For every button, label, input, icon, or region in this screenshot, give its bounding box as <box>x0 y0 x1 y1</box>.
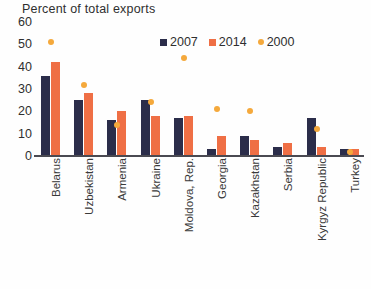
exports-bar-chart: Percent of total exports 2007 2014 2000 … <box>0 0 371 289</box>
bar-2014 <box>117 111 126 156</box>
x-label-belarus: Belarus <box>50 158 62 197</box>
bar-group <box>139 22 172 156</box>
y-tick-50: 50 <box>6 38 32 50</box>
marker-2000 <box>181 55 187 61</box>
marker-2000 <box>81 82 87 88</box>
x-label-ukraine: Ukraine <box>150 158 162 198</box>
bar-2014 <box>217 136 226 156</box>
x-axis-line <box>34 155 364 157</box>
bar-2007 <box>141 100 150 156</box>
marker-2000 <box>48 39 54 45</box>
bar-group <box>72 22 105 156</box>
bar-group <box>39 22 72 156</box>
chart-title: Percent of total exports <box>22 2 155 16</box>
bar-2007 <box>307 118 316 156</box>
bar-2007 <box>174 118 183 156</box>
bar-group <box>205 22 238 156</box>
y-tick-0: 0 <box>6 150 32 162</box>
marker-2000 <box>247 108 253 114</box>
marker-2000 <box>148 99 154 105</box>
bar-group <box>172 22 205 156</box>
bar-2014 <box>283 143 292 156</box>
bar-2014 <box>84 93 93 156</box>
y-tick-10: 10 <box>6 128 32 140</box>
x-label-armenia: Armenia <box>116 158 128 201</box>
marker-2000 <box>314 126 320 132</box>
y-tick-60: 60 <box>6 16 32 28</box>
bar-2014 <box>250 140 259 156</box>
y-axis-tick-labels: 6050403020100 <box>6 14 32 162</box>
plot-area <box>34 22 366 156</box>
bar-2014 <box>184 116 193 156</box>
bar-2007 <box>74 100 83 156</box>
bar-group <box>338 22 371 156</box>
marker-2000 <box>347 149 353 155</box>
bar-2014 <box>151 116 160 156</box>
bar-group <box>271 22 304 156</box>
x-label-kyrgyz-republic: Kyrgyz Republic <box>316 158 328 241</box>
bar-group <box>238 22 271 156</box>
x-label-georgia: Georgia <box>216 158 228 199</box>
x-label-moldova-rep: Moldova, Rep. <box>183 158 195 232</box>
bar-2014 <box>51 62 60 156</box>
marker-2000 <box>214 106 220 112</box>
x-label-turkey: Turkey <box>349 158 361 193</box>
x-label-uzbekistan: Uzbekistan <box>83 158 95 215</box>
x-axis-category-labels: BelarusUzbekistanArmeniaUkraineMoldova, … <box>34 158 366 286</box>
x-label-serbia: Serbia <box>282 158 294 191</box>
x-label-kazakhstan: Kazakhstan <box>249 158 261 218</box>
bar-group <box>105 22 138 156</box>
bar-2007 <box>240 136 249 156</box>
bar-2007 <box>41 76 50 156</box>
y-tick-30: 30 <box>6 83 32 95</box>
bar-group <box>305 22 338 156</box>
y-tick-20: 20 <box>6 105 32 117</box>
y-tick-40: 40 <box>6 61 32 73</box>
